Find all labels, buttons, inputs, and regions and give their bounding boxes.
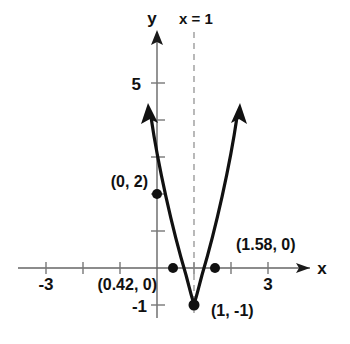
label-vertex: (1, -1) — [211, 302, 254, 319]
label-root-left: (0.42, 0) — [97, 276, 157, 293]
parabola-right-arrowhead — [231, 103, 247, 124]
x-axis-label: x — [317, 259, 327, 278]
axis-of-symmetry-label: x = 1 — [179, 10, 213, 27]
parabola-left-arrowhead — [141, 103, 158, 124]
point-root-right — [210, 263, 220, 273]
graph-canvas: x y -3 3 5 -1 x = 1 (0, 2) (0.42, 0) (1.… — [0, 0, 350, 344]
x-tick-label--3: -3 — [38, 275, 53, 294]
x-tick-label-3: 3 — [263, 275, 272, 294]
label-root-right: (1.58, 0) — [236, 236, 296, 253]
x-axis-group — [18, 262, 310, 274]
y-tick-label-5: 5 — [132, 75, 141, 94]
point-vertex — [189, 300, 200, 311]
point-root-left — [168, 263, 178, 273]
y-tick-label--1: -1 — [132, 297, 147, 316]
label-y-intercept: (0, 2) — [111, 173, 148, 190]
point-y-intercept — [152, 189, 162, 199]
y-axis-label: y — [147, 9, 157, 28]
parabola-figure: x y -3 3 5 -1 x = 1 (0, 2) (0.42, 0) (1.… — [0, 0, 350, 344]
y-axis-group — [151, 30, 165, 318]
